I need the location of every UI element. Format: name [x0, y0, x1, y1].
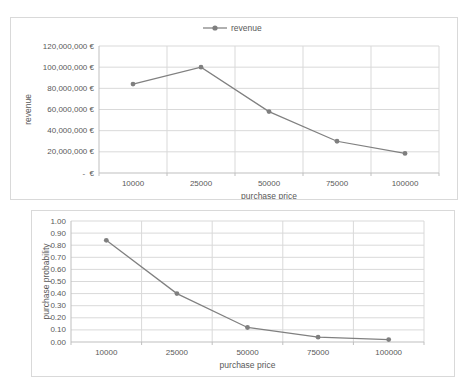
x-tick-label: 50000 — [258, 179, 281, 188]
y-tick-label: 0.80 — [50, 241, 66, 250]
legend-marker-icon — [212, 25, 217, 30]
y-tick-label: 0.60 — [50, 265, 66, 274]
x-tick-label: 10000 — [122, 179, 145, 188]
data-point-marker — [335, 139, 340, 144]
data-point-marker — [316, 335, 321, 340]
y-tick-label: 0.90 — [50, 229, 66, 238]
y-tick-label: 20,000,000 € — [47, 147, 94, 156]
y-axis-title: purchase probability — [41, 243, 51, 320]
y-tick-label: 0.00 — [50, 338, 66, 347]
y-tick-label: 0.30 — [50, 301, 66, 310]
x-tick-label: 25000 — [190, 179, 213, 188]
data-point-marker — [131, 82, 136, 87]
y-axis-title: revenue — [23, 94, 33, 125]
x-tick-label: 25000 — [166, 348, 189, 357]
x-tick-label: 75000 — [326, 179, 349, 188]
y-tick-label: 0.50 — [50, 277, 66, 286]
purchase-probability-chart: 0.000.100.200.300.400.500.600.700.800.90… — [31, 210, 455, 377]
x-tick-label: 100000 — [392, 179, 419, 188]
x-axis-title: purchase price — [220, 360, 276, 370]
data-point-marker — [403, 151, 408, 156]
y-tick-label: 100,000,000 € — [43, 63, 95, 72]
data-point-marker — [199, 65, 204, 70]
revenue-chart: - €20,000,000 €40,000,000 €60,000,000 €8… — [10, 17, 458, 200]
data-point-marker — [175, 291, 180, 296]
y-tick-label: - € — [82, 169, 94, 178]
y-tick-label: 60,000,000 € — [47, 105, 94, 114]
y-tick-label: 0.40 — [50, 289, 66, 298]
y-tick-label: 1.00 — [50, 217, 66, 226]
x-tick-label: 75000 — [307, 348, 330, 357]
x-axis-title: purchase price — [241, 191, 297, 199]
legend-label: revenue — [231, 23, 262, 33]
y-tick-label: 120,000,000 € — [43, 42, 95, 51]
x-tick-label: 50000 — [236, 348, 259, 357]
data-point-marker — [104, 238, 109, 243]
data-point-marker — [386, 337, 391, 342]
revenue-chart-svg: - €20,000,000 €40,000,000 €60,000,000 €8… — [11, 18, 457, 199]
y-tick-label: 0.20 — [50, 313, 66, 322]
data-point-marker — [267, 109, 272, 114]
x-tick-label: 100000 — [375, 348, 402, 357]
y-tick-label: 80,000,000 € — [47, 84, 94, 93]
x-tick-label: 10000 — [95, 348, 118, 357]
probability-chart-svg: 0.000.100.200.300.400.500.600.700.800.90… — [32, 211, 454, 376]
series-line — [106, 240, 388, 339]
data-point-marker — [245, 325, 250, 330]
y-tick-label: 0.10 — [50, 325, 66, 334]
y-tick-label: 0.70 — [50, 253, 66, 262]
y-tick-label: 40,000,000 € — [47, 126, 94, 135]
